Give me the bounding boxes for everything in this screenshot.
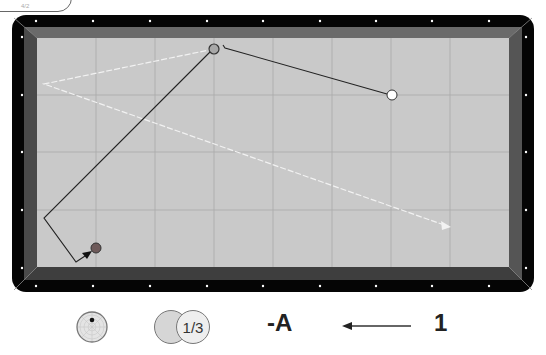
thickness-selector[interactable]: 1/3: [154, 309, 214, 345]
cushion-left: [24, 27, 37, 280]
cushion-bottom: [24, 267, 522, 280]
cue-tip-spin-icon[interactable]: [76, 311, 108, 343]
object-ball-white[interactable]: [387, 90, 397, 100]
billiard-table: [0, 0, 546, 300]
system-label: -A: [267, 309, 292, 337]
count-number: 1: [434, 309, 447, 337]
spin-point: [90, 318, 95, 323]
thickness-value: 1/3: [176, 310, 210, 344]
cushion-right: [509, 27, 522, 280]
object-ball-grey[interactable]: [209, 44, 219, 54]
cushion-top: [24, 27, 522, 38]
arrow-left-icon: [342, 320, 412, 332]
cue-ball[interactable]: [91, 243, 101, 253]
